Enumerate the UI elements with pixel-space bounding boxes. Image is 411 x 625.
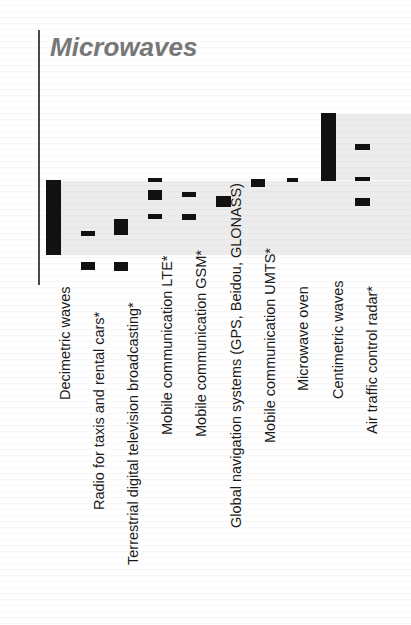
bar-air-traffic-control-radar	[355, 177, 370, 181]
bar-air-traffic-control-radar	[355, 144, 370, 150]
category-label-radio-taxis-rental-cars: Radio for taxis and rental cars*	[92, 312, 107, 510]
bar-mobile-gsm	[182, 192, 196, 197]
bar-mobile-umts	[251, 179, 265, 187]
bar-terrestrial-digital-tv	[114, 219, 128, 235]
bar-mobile-lte	[148, 214, 162, 219]
microwave-spectrum-chart: Microwaves Decimetric waves Radio for ta…	[0, 0, 411, 625]
bar-mobile-gsm	[182, 214, 196, 220]
category-label-mobile-lte: Mobile communication LTE*	[160, 256, 175, 435]
category-label-air-traffic-control-radar: Air traffic control radar*	[365, 286, 380, 434]
bar-radio-taxis-rental-cars	[81, 231, 95, 236]
bar-air-traffic-control-radar	[355, 198, 370, 206]
bar-radio-taxis-rental-cars	[81, 262, 95, 270]
category-label-centimetric-waves: Centimetric waves	[331, 281, 346, 399]
category-label-mobile-umts: Mobile communication UMTS*	[263, 248, 278, 443]
bar-mobile-lte	[148, 178, 162, 182]
category-label-mobile-gsm: Mobile communication GSM*	[194, 250, 209, 437]
category-label-decimetric-waves: Decimetric waves	[58, 286, 73, 400]
category-label-global-navigation-systems: Global navigation systems (GPS, Beidou, …	[229, 183, 244, 528]
bar-mobile-lte	[148, 190, 162, 200]
bar-decimetric-waves	[46, 180, 61, 255]
bar-terrestrial-digital-tv	[114, 262, 128, 271]
category-label-terrestrial-digital-tv: Terrestrial digital television broadcast…	[126, 302, 141, 565]
bar-microwave-oven	[287, 178, 298, 182]
centimetric-band	[336, 114, 411, 180]
category-label-microwave-oven: Microwave oven	[296, 286, 311, 391]
bar-centimetric-waves	[321, 113, 336, 181]
axis-spine	[38, 30, 40, 285]
page-title: Microwaves	[50, 32, 197, 63]
